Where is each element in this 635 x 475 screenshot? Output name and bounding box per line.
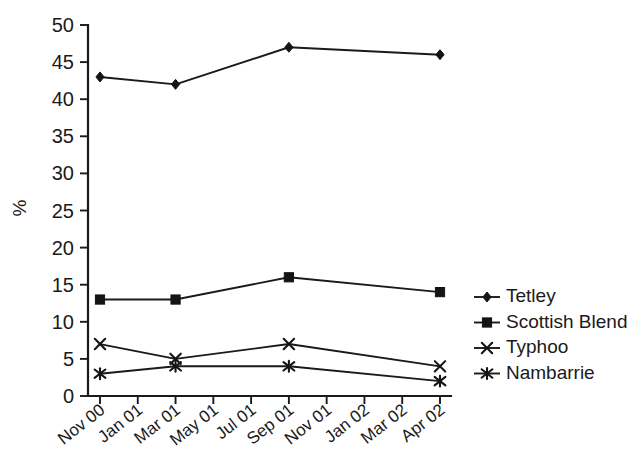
data-series-group xyxy=(95,42,446,386)
x-tick-group xyxy=(100,396,440,404)
line-chart: 05101520253035404550 Nov 00Jan 01Mar 01M… xyxy=(0,0,635,475)
x-tick-label-group: Nov 00Jan 01Mar 01May 01Jul 01Sep 01Nov … xyxy=(54,400,448,449)
data-point-marker-square xyxy=(171,295,180,304)
y-tick-label: 0 xyxy=(63,385,74,407)
legend-label: Scottish Blend xyxy=(506,311,627,332)
y-tick-label: 20 xyxy=(52,237,74,259)
x-tick-label: Nov 00 xyxy=(54,400,108,448)
y-tick-label: 30 xyxy=(52,162,74,184)
legend-label: Nambarrie xyxy=(506,362,595,383)
y-tick-label: 50 xyxy=(52,14,74,36)
data-point-marker-square xyxy=(284,273,293,282)
data-point-marker-square xyxy=(482,318,491,327)
series-tetley xyxy=(96,42,444,89)
data-point-marker-diamond xyxy=(436,50,444,60)
series-nambarrie xyxy=(95,361,446,387)
data-point-marker-diamond xyxy=(483,292,491,302)
legend-item-scottish-blend[interactable]: Scottish Blend xyxy=(474,311,627,332)
y-tick-label-group: 05101520253035404550 xyxy=(52,14,74,407)
y-tick-label: 45 xyxy=(52,51,74,73)
legend-item-nambarrie[interactable]: Nambarrie xyxy=(474,362,595,383)
series-line xyxy=(100,344,440,366)
series-line xyxy=(100,366,440,381)
y-tick-label: 40 xyxy=(52,88,74,110)
series-scottish-blend xyxy=(95,273,444,304)
legend-item-typhoo[interactable]: Typhoo xyxy=(474,336,568,357)
y-tick-label: 5 xyxy=(63,348,74,370)
y-tick-label: 10 xyxy=(52,311,74,333)
x-tick-label: Apr 02 xyxy=(397,400,448,446)
y-tick-label: 25 xyxy=(52,200,74,222)
chart-legend: TetleyScottish BlendTyphooNambarrie xyxy=(474,285,627,383)
y-tick-group xyxy=(80,25,88,396)
series-line xyxy=(100,47,440,84)
data-point-marker-diamond xyxy=(285,42,293,52)
y-axis-title: % xyxy=(9,199,30,216)
legend-item-tetley[interactable]: Tetley xyxy=(474,285,556,306)
legend-label: Tetley xyxy=(506,285,556,306)
legend-label: Typhoo xyxy=(506,336,568,357)
series-line xyxy=(100,277,440,299)
data-point-marker-square xyxy=(95,295,104,304)
y-tick-label: 15 xyxy=(52,274,74,296)
data-point-marker-square xyxy=(435,288,444,297)
data-point-marker-diamond xyxy=(96,72,104,82)
y-tick-label: 35 xyxy=(52,125,74,147)
data-point-marker-diamond xyxy=(171,79,179,89)
chart-canvas: 05101520253035404550 Nov 00Jan 01Mar 01M… xyxy=(0,0,635,475)
